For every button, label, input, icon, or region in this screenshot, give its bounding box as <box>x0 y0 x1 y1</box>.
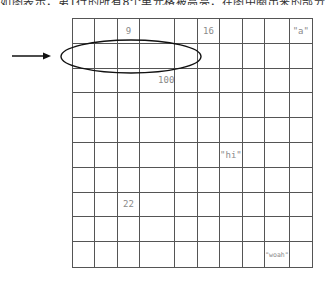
grid-cell-r5-c8 <box>265 143 289 168</box>
array-grid: 916"a"100"hi"22"woah" <box>72 18 313 268</box>
grid-cell-r1-c4 <box>175 44 197 69</box>
grid-cell-r3-c6 <box>220 93 243 118</box>
grid-cell-r1-c3 <box>140 44 175 69</box>
grid-cell-r1-c2 <box>118 44 140 69</box>
grid-cell-r5-c7 <box>243 143 265 168</box>
grid-cell-r6-c5 <box>198 168 220 193</box>
grid-cell-r2-c0 <box>73 69 95 94</box>
grid-cell-r2-c3: 100 <box>140 69 175 94</box>
grid-cell-r7-c2: 22 <box>118 193 140 218</box>
grid-cell-r4-c6 <box>220 118 243 143</box>
grid-cell-r2-c6 <box>220 69 243 94</box>
grid-cell-r2-c5 <box>198 69 220 94</box>
cell-value: "hi" <box>220 150 242 160</box>
grid-cell-r8-c3 <box>140 217 175 242</box>
grid-cell-r6-c8 <box>265 168 289 193</box>
grid-cell-r2-c4 <box>175 69 197 94</box>
grid-cell-r3-c1 <box>95 93 117 118</box>
grid-cell-r4-c0 <box>73 118 95 143</box>
grid-cell-r6-c4 <box>175 168 197 193</box>
grid-cell-r5-c4 <box>175 143 197 168</box>
caption-text: 如图表示，第1行的所有8个单元格被高亮，在图中圈出来的部分，如下所示。 <box>0 0 325 5</box>
cell-value: 22 <box>123 199 134 209</box>
grid-cell-r5-c0 <box>73 143 95 168</box>
grid-cell-r6-c7 <box>243 168 265 193</box>
grid-cell-r3-c2 <box>118 93 140 118</box>
grid-cell-r8-c6 <box>220 217 243 242</box>
grid-cell-r3-c0 <box>73 93 95 118</box>
grid-cell-r8-c7 <box>243 217 265 242</box>
grid-cell-r7-c5 <box>198 193 220 218</box>
grid-cell-r4-c7 <box>243 118 265 143</box>
grid-cell-r1-c0 <box>73 44 95 69</box>
grid-cell-r8-c1 <box>95 217 117 242</box>
grid-cell-r0-c9: "a" <box>290 19 312 44</box>
grid-cell-r6-c2 <box>118 168 140 193</box>
grid-cell-r4-c3 <box>140 118 175 143</box>
grid-cell-r8-c2 <box>118 217 140 242</box>
grid-cell-r0-c1 <box>95 19 117 44</box>
grid-cell-r2-c9 <box>290 69 312 94</box>
grid-cell-r7-c8 <box>265 193 289 218</box>
grid-cell-r3-c8 <box>265 93 289 118</box>
grid-cell-r1-c1 <box>95 44 117 69</box>
grid-cell-r0-c0 <box>73 19 95 44</box>
cell-value: "woah" <box>265 251 288 259</box>
grid-cell-r5-c2 <box>118 143 140 168</box>
grid-cell-r5-c3 <box>140 143 175 168</box>
grid-cell-r1-c8 <box>265 44 289 69</box>
grid-cell-r9-c6 <box>220 242 243 267</box>
grid-cell-r2-c8 <box>265 69 289 94</box>
grid-cell-r7-c7 <box>243 193 265 218</box>
grid-cell-r3-c4 <box>175 93 197 118</box>
grid-cell-r3-c7 <box>243 93 265 118</box>
grid-cell-r1-c6 <box>220 44 243 69</box>
grid-cell-r7-c9 <box>290 193 312 218</box>
grid-cell-r9-c0 <box>73 242 95 267</box>
grid-cell-r9-c4 <box>175 242 197 267</box>
grid-cell-r5-c6: "hi" <box>220 143 243 168</box>
grid-cell-r1-c5 <box>198 44 220 69</box>
grid-cell-r0-c3 <box>140 19 175 44</box>
grid-cell-r1-c7 <box>243 44 265 69</box>
grid-cell-r9-c8: "woah" <box>265 242 289 267</box>
grid-cell-r5-c9 <box>290 143 312 168</box>
grid-cell-r6-c6 <box>220 168 243 193</box>
grid-cell-r8-c4 <box>175 217 197 242</box>
grid-cell-r0-c7 <box>243 19 265 44</box>
grid-cell-r7-c3 <box>140 193 175 218</box>
grid-cell-r4-c5 <box>198 118 220 143</box>
grid-cell-r6-c9 <box>290 168 312 193</box>
grid-cell-r4-c4 <box>175 118 197 143</box>
grid-cell-r8-c8 <box>265 217 289 242</box>
grid-cell-r8-c9 <box>290 217 312 242</box>
grid-cell-r2-c1 <box>95 69 117 94</box>
grid-cell-r2-c7 <box>243 69 265 94</box>
grid-cell-r3-c9 <box>290 93 312 118</box>
grid-cell-r9-c7 <box>243 242 265 267</box>
grid-cell-r6-c1 <box>95 168 117 193</box>
grid-cell-r3-c5 <box>198 93 220 118</box>
grid-cell-r4-c8 <box>265 118 289 143</box>
grid-cell-r7-c4 <box>175 193 197 218</box>
grid-cell-r7-c1 <box>95 193 117 218</box>
grid-cell-r7-c6 <box>220 193 243 218</box>
grid-cell-r9-c9 <box>290 242 312 267</box>
cell-value: 100 <box>158 75 174 85</box>
grid-cell-r9-c5 <box>198 242 220 267</box>
grid-cell-r5-c1 <box>95 143 117 168</box>
cell-value: 16 <box>203 26 214 36</box>
grid-cell-r3-c3 <box>140 93 175 118</box>
cell-value: 9 <box>126 26 131 36</box>
grid-cell-r6-c0 <box>73 168 95 193</box>
grid-cell-r4-c1 <box>95 118 117 143</box>
cell-value: "a" <box>293 26 309 36</box>
grid-cell-r0-c5: 16 <box>198 19 220 44</box>
grid-cell-r4-c2 <box>118 118 140 143</box>
grid-cell-r0-c4 <box>175 19 197 44</box>
grid-cell-r2-c2 <box>118 69 140 94</box>
grid-cell-r5-c5 <box>198 143 220 168</box>
right-arrow-icon <box>12 53 51 60</box>
grid-cell-r9-c3 <box>140 242 175 267</box>
grid-cell-r0-c6 <box>220 19 243 44</box>
